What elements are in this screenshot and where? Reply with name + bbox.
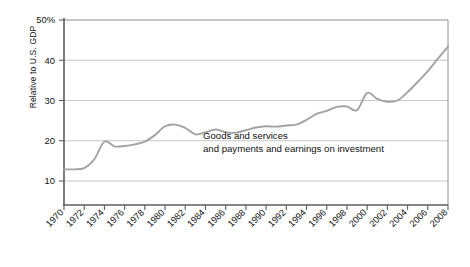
x-tick-label-1972: 1972 (64, 207, 86, 229)
x-tick-label-1978: 1978 (125, 207, 147, 229)
series-label-line-2: and payments and earnings on investment (203, 143, 384, 154)
chart-figure: Relative to U.S. GDP 1020304050% 1970197… (0, 0, 470, 267)
x-tick-label-1994: 1994 (286, 207, 308, 229)
x-tick-label-1980: 1980 (145, 207, 167, 229)
x-tick-label-1992: 1992 (266, 207, 288, 229)
x-axis-ticks: 1970197219741976197819801982198419861988… (44, 205, 450, 229)
chart-plot-area: 1020304050% 1970197219741976197819801982… (0, 0, 470, 267)
y-tick-label-10: 10 (45, 175, 55, 186)
y-tick-label-40: 40 (45, 55, 55, 66)
gridlines (64, 60, 448, 181)
x-tick-label-1976: 1976 (105, 207, 127, 229)
x-tick-label-1988: 1988 (226, 207, 248, 229)
x-tick-label-1982: 1982 (165, 207, 187, 229)
y-tick-label-50: 50% (36, 14, 55, 25)
x-tick-label-1990: 1990 (246, 207, 268, 229)
y-axis-ticks: 1020304050% (36, 14, 64, 186)
x-tick-label-1996: 1996 (307, 207, 329, 229)
x-tick-label-2002: 2002 (367, 207, 389, 229)
x-tick-label-2000: 2000 (347, 207, 369, 229)
x-tick-label-1970: 1970 (44, 207, 66, 229)
x-tick-label-1998: 1998 (327, 207, 349, 229)
series-label-line-1: Goods and services (203, 130, 288, 141)
x-tick-label-2008: 2008 (428, 207, 450, 229)
y-tick-label-20: 20 (45, 135, 55, 146)
x-tick-label-1984: 1984 (185, 207, 207, 229)
x-tick-label-1974: 1974 (84, 207, 106, 229)
x-tick-label-1986: 1986 (206, 207, 228, 229)
x-tick-label-2004: 2004 (387, 207, 409, 229)
x-tick-label-2006: 2006 (408, 207, 430, 229)
y-tick-label-30: 30 (45, 95, 55, 106)
